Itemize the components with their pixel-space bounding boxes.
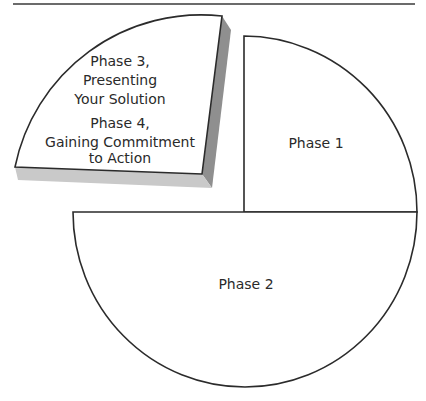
phase-2-label: Phase 2 <box>218 276 273 292</box>
phase-2-slice[interactable] <box>73 212 417 387</box>
phase-4-label-line-3: to Action <box>89 150 151 166</box>
phase-pie-diagram: Phase 1 Phase 2 Phase 3, Presenting Your… <box>0 0 426 401</box>
phase-1-label: Phase 1 <box>288 135 343 151</box>
phase-4-label-line-1: Phase 4, <box>90 115 150 131</box>
phase-3-label-line-1: Phase 3, <box>90 53 150 69</box>
phase-1-slice[interactable] <box>244 36 417 212</box>
phase-3-label-line-2: Presenting <box>83 72 157 88</box>
phase-3-label-line-3: Your Solution <box>73 91 165 107</box>
phase-4-label-line-2: Gaining Commitment <box>45 134 195 150</box>
